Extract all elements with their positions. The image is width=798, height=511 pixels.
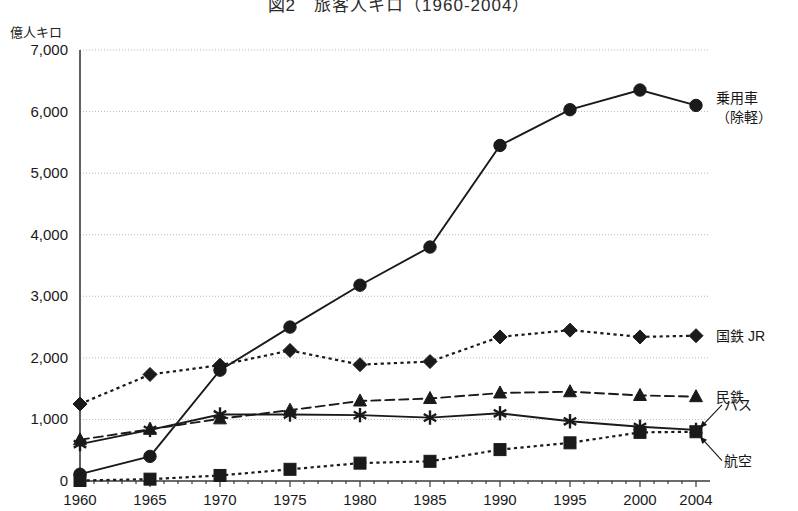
data-point-square [564,437,576,449]
series-3 [74,406,702,451]
x-tick-label: 1965 [133,491,166,508]
bus-leader-line [702,405,722,426]
data-point-square [634,426,646,438]
x-tick-label: 1990 [483,491,516,508]
data-point-triangle [564,385,577,397]
x-tick-label: 2000 [623,491,656,508]
series-1 [73,323,703,411]
x-axis-tick-labels: 1960196519701975198019851990199520002004 [63,491,712,508]
data-point-circle [144,450,156,462]
data-point-square [284,463,296,475]
data-point-diamond [73,397,87,411]
axes [80,50,710,487]
data-point-square [354,457,366,469]
data-point-triangle [690,390,703,402]
data-point-circle [284,321,296,333]
series-label-bus: バス [724,397,752,413]
data-point-diamond [143,367,157,381]
data-point-diamond [283,343,297,357]
data-point-diamond [423,355,437,369]
y-axis-tick-labels: 01,0002,0003,0004,0005,0006,0007,000 [30,41,68,489]
x-tick-label: 2004 [679,491,712,508]
y-tick-label: 0 [60,472,68,489]
data-point-circle [690,99,702,111]
data-point-circle [634,84,646,96]
y-tick-label: 2,000 [30,349,68,366]
data-point-circle [494,139,506,151]
x-tick-label: 1980 [343,491,376,508]
data-point-diamond [353,358,367,372]
series-label-passenger-car: 乗用車 [716,90,758,106]
x-tick-label: 1960 [63,491,96,508]
data-point-square [214,469,226,481]
y-tick-label: 5,000 [30,164,68,181]
data-series [73,84,703,487]
data-point-square [74,475,86,487]
data-point-diamond [689,329,703,343]
x-tick-label: 1995 [553,491,586,508]
x-tick-label: 1985 [413,491,446,508]
data-point-diamond [563,323,577,337]
data-point-circle [354,279,366,291]
chart-plot: 01,0002,0003,0004,0005,0006,0007,000 196… [0,0,798,511]
data-point-triangle [634,388,647,400]
series-label-jnr-jr: 国鉄 JR [716,328,765,344]
y-tick-label: 7,000 [30,41,68,58]
series-label-passenger-car-sub: （除軽） [716,109,772,125]
data-point-diamond [633,330,647,344]
x-tick-label: 1970 [203,491,236,508]
data-point-diamond [493,330,507,344]
y-tick-label: 1,000 [30,410,68,427]
data-point-circle [564,104,576,116]
chart-page: 図2 旅客人キロ（1960-2004） 億人キロ 01,0002,0003,00… [0,0,798,511]
data-point-square [494,444,506,456]
y-tick-label: 3,000 [30,287,68,304]
x-tick-label: 1975 [273,491,306,508]
series-line [80,432,696,481]
series-0 [74,84,702,481]
series-label-air: 航空 [724,453,752,469]
series-labels: 乗用車（除軽）国鉄 JR民鉄バス航空 [700,90,772,468]
y-tick-label: 6,000 [30,103,68,120]
data-point-square [424,455,436,467]
air-leader-line [702,439,722,461]
data-point-square [144,473,156,485]
data-point-circle [424,241,436,253]
y-tick-label: 4,000 [30,226,68,243]
